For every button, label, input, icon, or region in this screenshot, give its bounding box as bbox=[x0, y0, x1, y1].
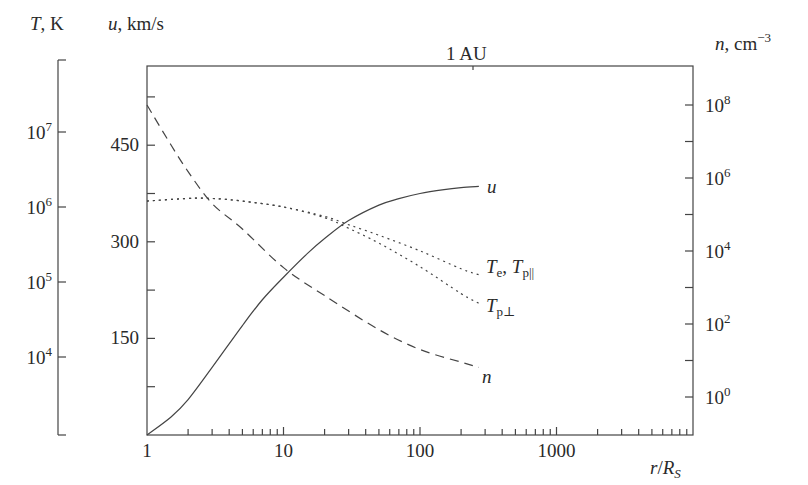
t-axis-unit: , K bbox=[41, 13, 65, 34]
x-axis-R: R bbox=[662, 457, 675, 478]
n-curve-label: n bbox=[482, 366, 492, 387]
te-comma: , bbox=[502, 256, 512, 277]
u-tick-label: 450 bbox=[111, 134, 140, 155]
t-tick-label: 107 bbox=[27, 119, 53, 143]
u-axis-title: u, km/s bbox=[108, 13, 164, 34]
t-tick-label: 105 bbox=[27, 269, 53, 293]
curve-tp-perp bbox=[147, 198, 479, 303]
n-tick-label: 102 bbox=[705, 311, 731, 335]
t-tick-label: 104 bbox=[27, 344, 53, 368]
curve-n bbox=[147, 105, 479, 367]
labels-layer: 1101001000450300150108106104102100107106… bbox=[27, 92, 732, 461]
x-axis-sub: S bbox=[674, 466, 681, 481]
au-marker-label: 1 AU bbox=[446, 43, 487, 64]
curve-u bbox=[147, 186, 479, 435]
u-axis-var: u bbox=[108, 13, 118, 34]
tp-par-sub: p|| bbox=[522, 265, 534, 280]
n-tick-label: 106 bbox=[705, 165, 731, 189]
n-tick-label: 100 bbox=[705, 384, 731, 408]
n-axis-title: n, cm−3 bbox=[715, 30, 771, 54]
plot-frame bbox=[147, 66, 693, 435]
n-tick-label: 104 bbox=[705, 238, 731, 262]
n-axis-unit: , cm bbox=[725, 33, 758, 54]
tp-perp-curve-label: Tp⊥ bbox=[486, 295, 515, 319]
solar-wind-profile-chart: 1101001000450300150108106104102100107106… bbox=[0, 0, 808, 485]
n-axis-var: n bbox=[715, 33, 725, 54]
n-axis-exp: −3 bbox=[757, 30, 771, 45]
x-tick-label: 100 bbox=[406, 440, 435, 461]
u-axis-unit: , km/s bbox=[118, 13, 164, 34]
te-tp-par-curve-label: Te, Tp|| bbox=[486, 256, 534, 280]
u-curve-label: u bbox=[487, 176, 497, 197]
x-tick-label: 1000 bbox=[538, 440, 576, 461]
u-tick-label: 150 bbox=[111, 327, 140, 348]
x-axis-title: r/RS bbox=[650, 457, 681, 481]
n-tick-label: 108 bbox=[705, 92, 731, 116]
t-tick-label: 106 bbox=[27, 194, 53, 218]
t-axis-title: T, K bbox=[30, 13, 64, 34]
curves-layer bbox=[147, 105, 479, 435]
axes-layer bbox=[58, 60, 693, 435]
x-tick-label: 1 bbox=[142, 440, 152, 461]
curve-te-tp-par bbox=[147, 198, 479, 275]
u-tick-label: 300 bbox=[111, 231, 140, 252]
tperp-sub: p⊥ bbox=[497, 304, 516, 319]
x-tick-label: 10 bbox=[274, 440, 293, 461]
